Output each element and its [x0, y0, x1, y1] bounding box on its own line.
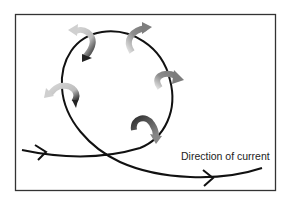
current-loop-diagram: Direction of current	[0, 0, 288, 204]
direction-label: Direction of current	[181, 150, 270, 162]
diagram-frame	[16, 15, 276, 191]
